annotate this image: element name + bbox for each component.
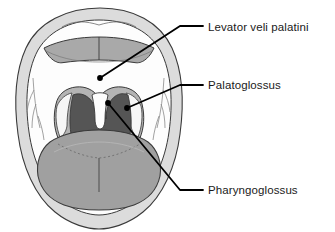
- label-pharyngoglossus: Pharyngoglossus: [208, 184, 298, 197]
- label-levator-veli-palatini: Levator veli palatini: [208, 21, 309, 34]
- anatomy-illustration: [0, 0, 335, 232]
- anatomy-figure: Levator veli palatini Palatoglossus Phar…: [0, 0, 335, 232]
- leader-dot-pharyngoglossus: [105, 100, 111, 106]
- label-palatoglossus: Palatoglossus: [208, 79, 281, 92]
- leader-dot-levator-veli-palatini: [97, 75, 103, 81]
- leader-dot-palatoglossus: [124, 105, 130, 111]
